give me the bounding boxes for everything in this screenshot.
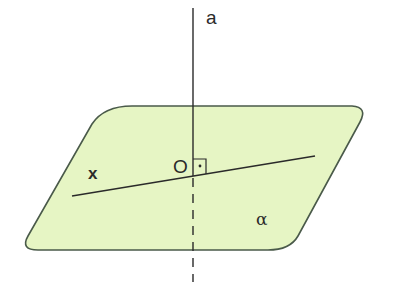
- diagram-canvas: [0, 0, 402, 294]
- label-alpha: α: [256, 211, 267, 228]
- label-a: a: [206, 8, 217, 27]
- label-x: x: [88, 165, 97, 182]
- plane-alpha: [26, 106, 363, 250]
- right-angle-dot: [199, 165, 202, 168]
- label-point-o: O: [173, 157, 188, 176]
